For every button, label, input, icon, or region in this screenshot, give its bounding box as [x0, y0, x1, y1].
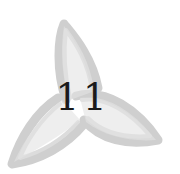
chapter-number: 11	[52, 78, 114, 118]
chapter-emblem: 11	[0, 0, 180, 174]
